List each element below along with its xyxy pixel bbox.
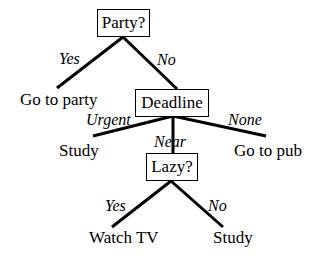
edge-label-party-no: No <box>157 51 176 69</box>
tree-edges <box>0 0 317 258</box>
leaf-watch-tv: Watch TV <box>89 228 159 248</box>
node-deadline: Deadline <box>135 89 209 117</box>
node-lazy: Lazy? <box>146 153 198 181</box>
leaf-study-lazy-no: Study <box>213 228 253 248</box>
edge-label-deadline-urgent: Urgent <box>86 111 131 129</box>
leaf-study-urgent: Study <box>59 141 99 161</box>
edge-label-deadline-none: None <box>228 111 262 129</box>
node-party-label: Party? <box>102 13 145 33</box>
leaf-go-to-pub: Go to pub <box>234 141 302 161</box>
edge-label-lazy-yes: Yes <box>105 197 126 215</box>
edge-label-deadline-near: Near <box>154 133 186 151</box>
edge-label-party-yes: Yes <box>59 50 80 68</box>
node-party: Party? <box>97 9 150 37</box>
leaf-go-to-party: Go to party <box>20 90 97 110</box>
node-lazy-label: Lazy? <box>151 157 193 177</box>
edge-label-lazy-no: No <box>208 197 227 215</box>
node-deadline-label: Deadline <box>141 93 202 113</box>
